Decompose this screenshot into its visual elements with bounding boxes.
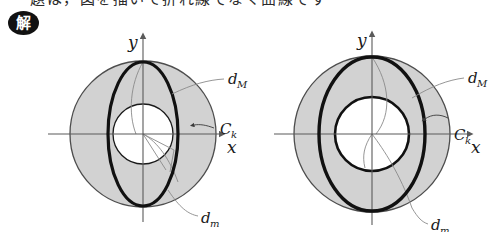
figure-annulus-narrow-ellipse: d M d m C k x y (48, 22, 273, 232)
x-axis-label: x (227, 137, 237, 157)
x-axis-label: x (471, 137, 481, 157)
clipped-header-text-row: 題は，図を描いて折れ線でなく曲線です (0, 0, 501, 11)
label-d-major-subscript: M (236, 79, 248, 90)
label-d-major-subscript: M (476, 78, 488, 89)
solution-badge: 解 (8, 11, 39, 35)
y-axis-label: y (356, 30, 367, 50)
clipped-header-text: 題は，図を描いて折れ線でなく曲線です (30, 0, 327, 8)
label-d-minor-subscript: m (440, 225, 449, 232)
label-d-minor: d m (201, 209, 219, 229)
leader-dm-minor (412, 208, 428, 224)
label-curve-ck: C k (454, 126, 471, 146)
label-d-minor: d m (431, 216, 449, 232)
y-axis-label: y (127, 32, 138, 52)
label-d-major: d M (468, 69, 488, 89)
label-d-minor-subscript: m (210, 218, 219, 229)
label-d-major: d M (228, 70, 248, 90)
figure-annulus-wide-ellipse: d M d m C k x y (272, 22, 501, 232)
